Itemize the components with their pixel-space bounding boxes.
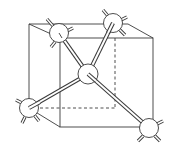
atom-top-right xyxy=(103,10,127,35)
cube-edge-top-right xyxy=(128,24,153,38)
crystal-structure-diagram xyxy=(0,0,179,154)
bond-center-bottom-right xyxy=(88,74,149,128)
diagram-canvas: Tetrahedral bonding in a cubic unit cell xyxy=(0,0,179,154)
atom-bottom-right xyxy=(138,119,163,142)
bond-ends xyxy=(29,23,113,108)
atom-top-left xyxy=(47,19,73,47)
